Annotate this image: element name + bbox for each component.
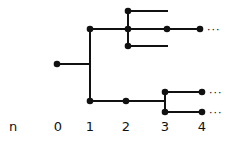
continuation-markers: ········· — [207, 23, 223, 119]
tree-node-b11 — [162, 89, 169, 96]
tree-node-b1 — [123, 98, 130, 105]
generation-tick-label: 1 — [86, 119, 94, 134]
tree-node-a2x — [164, 26, 171, 33]
generation-tick-label: 4 — [198, 119, 206, 134]
ellipsis-continuation: ··· — [209, 86, 223, 99]
tree-node-root — [54, 61, 61, 68]
tree-node-a3 — [125, 43, 132, 50]
ellipsis-continuation: ··· — [207, 23, 221, 36]
tree-node-b11x — [199, 89, 206, 96]
axis-variable-label: n — [9, 119, 17, 134]
tree-node-b12x — [199, 109, 206, 116]
tree-node-a1 — [125, 8, 132, 15]
tree-node-a2y — [197, 26, 204, 33]
tree-node-b12 — [162, 109, 169, 116]
tree-node-b — [87, 98, 94, 105]
generation-tick-label: 2 — [122, 119, 130, 134]
tree-node-a — [87, 26, 94, 33]
ellipsis-continuation: ··· — [209, 106, 223, 119]
tree-node-a2 — [125, 26, 132, 33]
tree-nodes — [54, 8, 206, 116]
branching-tree-diagram: ········· n 01234 — [0, 0, 240, 142]
generation-axis: n 01234 — [9, 119, 206, 134]
generation-tick-label: 0 — [54, 119, 62, 134]
generation-tick-label: 3 — [161, 119, 169, 134]
